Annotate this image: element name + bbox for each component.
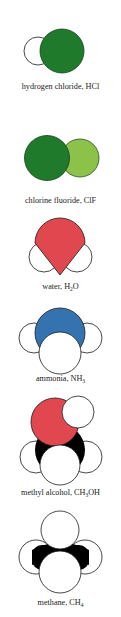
molecule-methyl-alcohol: [0, 395, 121, 490]
label-methyl-alcohol: methyl alcohol, CH3OH: [0, 488, 121, 498]
label-ammonia: ammonia, NH3: [0, 374, 121, 384]
methane-model-icon: [0, 510, 121, 595]
molecule-hydrogen-chloride: [0, 0, 121, 80]
molecule-ammonia: [0, 305, 121, 375]
label-hydrogen-chloride: hydrogen chloride, HCl: [0, 82, 121, 91]
molecule-chlorine-fluoride: [0, 130, 121, 190]
ammonia-model-icon: [0, 305, 121, 375]
water-model-icon: [0, 205, 121, 280]
label-water: water, H2O: [0, 282, 121, 292]
methyl-alcohol-model-icon: [0, 395, 121, 490]
label-methane: methane, CH4: [0, 598, 121, 608]
clf-model-icon: [0, 130, 121, 190]
molecule-water: [0, 205, 121, 280]
molecule-methane: [0, 510, 121, 595]
hcl-model-icon: [0, 0, 121, 80]
label-chlorine-fluoride: chlorine fluoride, ClF: [0, 196, 121, 205]
